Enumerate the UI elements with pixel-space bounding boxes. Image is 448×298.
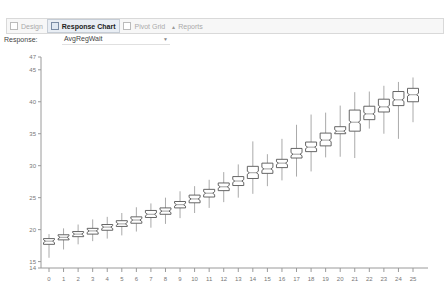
x-tick-label: 10: [191, 276, 198, 282]
y-tick-label: 20: [29, 227, 36, 233]
x-tick-label: 24: [395, 276, 402, 282]
box-plot-item: [175, 191, 186, 218]
x-tick-label: 4: [106, 276, 110, 282]
y-tick-label: 35: [29, 131, 36, 137]
x-tick-label: 15: [264, 276, 271, 282]
chart-boxes: [44, 77, 419, 257]
x-tick-label: 13: [235, 276, 242, 282]
x-tick-label: 8: [164, 276, 168, 282]
x-tick-label: 25: [410, 276, 417, 282]
box-plot-item: [408, 77, 419, 122]
x-tick-label: 19: [322, 276, 329, 282]
x-tick-label: 20: [337, 276, 344, 282]
x-tick-label: 21: [351, 276, 358, 282]
y-tick-label: 14: [29, 265, 36, 271]
box-plot-chart: 1415202530354045470123456789101112131415…: [0, 0, 448, 298]
box-plot-item: [320, 113, 331, 158]
x-tick-label: 3: [91, 276, 95, 282]
box-plot-item: [393, 82, 404, 139]
x-tick-label: 5: [120, 276, 124, 282]
box-plot-item: [335, 106, 346, 157]
box-plot-item: [204, 180, 215, 208]
y-tick-label: 40: [29, 99, 36, 105]
x-tick-label: 22: [366, 276, 373, 282]
x-tick-label: 11: [206, 276, 213, 282]
y-tick-label: 45: [29, 67, 36, 73]
x-tick-label: 14: [249, 276, 256, 282]
y-tick-label: 25: [29, 195, 36, 201]
y-tick-label: 47: [29, 54, 36, 60]
box-plot-item: [306, 115, 317, 172]
box-plot-item: [145, 203, 156, 227]
box-plot-item: [102, 217, 113, 239]
box-plot-item: [276, 139, 287, 181]
x-tick-label: 6: [135, 276, 139, 282]
box-plot-item: [73, 225, 84, 245]
y-tick-label: 30: [29, 163, 36, 169]
box-plot-item: [291, 125, 302, 177]
box-plot-item: [262, 154, 273, 186]
box-plot-item: [233, 164, 244, 197]
x-tick-label: 1: [62, 276, 66, 282]
box-plot-item: [247, 141, 258, 193]
x-tick-label: 7: [149, 276, 153, 282]
x-tick-label: 9: [178, 276, 182, 282]
x-tick-label: 23: [381, 276, 388, 282]
box-plot-item: [44, 234, 55, 258]
box-plot-item: [160, 198, 171, 224]
box-plot-item: [87, 219, 98, 241]
x-tick-label: 17: [293, 276, 300, 282]
x-tick-label: 12: [220, 276, 227, 282]
y-tick-label: 15: [29, 259, 36, 265]
box-plot-item: [131, 207, 142, 231]
x-tick-label: 2: [76, 276, 80, 282]
box-plot-item: [116, 213, 127, 235]
x-tick-label: 0: [47, 276, 51, 282]
box-plot-item: [378, 86, 389, 134]
box-plot-item: [364, 92, 375, 129]
box-plot-item: [349, 92, 360, 158]
box-plot-item: [189, 186, 200, 213]
x-tick-label: 16: [279, 276, 286, 282]
box-plot-item: [58, 228, 69, 249]
box-plot-item: [218, 172, 229, 202]
chart-axes: 1415202530354045470123456789101112131415…: [29, 54, 428, 282]
x-tick-label: 18: [308, 276, 315, 282]
